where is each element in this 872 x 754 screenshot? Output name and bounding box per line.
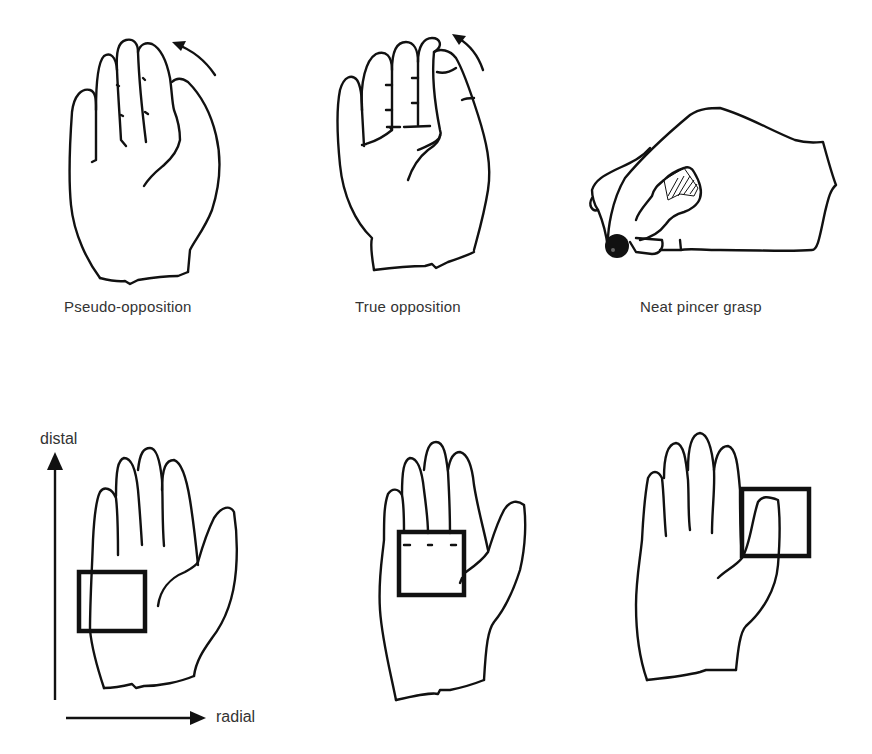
highlight-box-center: [399, 532, 464, 595]
palm-box-thumb-hand-drawing: [636, 433, 809, 680]
pseudo-opposition-hand-drawing: [69, 40, 219, 284]
direction-axes: [47, 452, 206, 725]
axis-label-radial: radial: [216, 708, 255, 726]
caption-neat-pincer-grasp: Neat pincer grasp: [640, 298, 762, 315]
palm-box-ulnar-hand-drawing: [79, 448, 237, 688]
true-opposition-hand-drawing: [337, 34, 489, 270]
distal-arrowhead-icon: [47, 452, 63, 470]
palm-box-center-hand-drawing: [379, 442, 525, 700]
hands-figure: [0, 0, 872, 754]
caption-pseudo-opposition: Pseudo-opposition: [64, 298, 192, 315]
neat-pincer-grasp-hand-drawing: [590, 108, 836, 258]
axis-label-distal: distal: [40, 430, 77, 448]
caption-true-opposition: True opposition: [355, 298, 461, 315]
radial-arrowhead-icon: [190, 711, 206, 725]
